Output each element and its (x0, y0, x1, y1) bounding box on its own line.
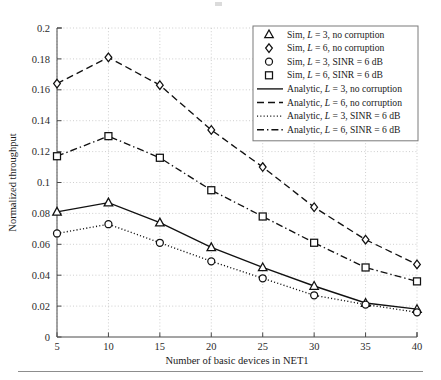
legend-label: Analytic, L = 3, SINR = 6 dB (287, 110, 400, 121)
y-tick-label: 0.2 (37, 23, 50, 34)
data-point-square-marker (311, 239, 318, 246)
x-tick-label: 20 (206, 341, 217, 352)
data-point-diamond-marker (105, 53, 112, 62)
data-point-circle-marker (54, 230, 61, 237)
x-tick-label: 40 (412, 341, 423, 352)
data-point-diamond-marker (311, 203, 318, 212)
x-tick-label: 30 (309, 341, 320, 352)
data-point-circle-marker (414, 309, 421, 316)
series-line (57, 136, 417, 281)
data-point-diamond-marker (157, 81, 164, 90)
x-tick-label: 10 (103, 341, 114, 352)
data-point-square-marker (208, 187, 215, 194)
data-point-circle-marker (208, 258, 215, 265)
data-point-diamond-marker (54, 79, 61, 88)
data-point-circle-marker (266, 58, 273, 65)
data-point-circle-marker (259, 275, 266, 282)
y-tick-label: 0.18 (32, 54, 50, 65)
y-tick-label: 0.1 (37, 177, 50, 188)
data-point-triangle-marker (104, 198, 113, 206)
data-point-diamond-marker (362, 235, 369, 244)
legend-label: Sim, L = 6, SINR = 6 dB (287, 69, 383, 80)
legend: Sim, L = 3, no corruptionSim, L = 6, no … (253, 26, 418, 141)
data-point-square-marker (259, 213, 266, 220)
chart-figure: 00.020.040.060.080.10.120.140.160.180.25… (0, 0, 441, 380)
data-point-circle-marker (105, 221, 112, 228)
data-point-square-marker (362, 264, 369, 271)
y-tick-label: 0.16 (32, 84, 50, 95)
y-axis-title: Normalized throughput (7, 133, 18, 231)
data-series (53, 198, 422, 312)
x-axis-title: Number of basic devices in NET1 (165, 355, 308, 366)
data-point-circle-marker (362, 301, 369, 308)
data-point-square-marker (156, 154, 163, 161)
legend-label: Analytic, L = 3, no corruption (287, 83, 402, 94)
x-tick-label: 15 (155, 341, 166, 352)
y-tick-label: 0.02 (32, 301, 50, 312)
data-point-square-marker (266, 72, 273, 79)
data-point-square-marker (105, 133, 112, 140)
legend-label: Sim, L = 6, no corruption (287, 42, 385, 53)
throughput-line-chart: 00.020.040.060.080.10.120.140.160.180.25… (0, 0, 441, 380)
footer-divider (18, 371, 423, 372)
data-point-circle-marker (311, 292, 318, 299)
legend-label: Analytic, L = 6, no corruption (287, 97, 402, 108)
x-tick-label: 35 (360, 341, 371, 352)
y-tick-label: 0.04 (32, 270, 51, 281)
x-tick-label: 5 (54, 341, 59, 352)
x-tick-label: 25 (257, 341, 268, 352)
data-point-diamond-marker (208, 126, 215, 135)
legend-label: Analytic, L = 6, SINR = 6 dB (287, 124, 400, 135)
legend-label: Sim, L = 3, SINR = 6 dB (287, 56, 383, 67)
y-tick-label: 0.08 (32, 208, 50, 219)
y-tick-label: 0.12 (32, 146, 50, 157)
data-point-circle-marker (156, 239, 163, 246)
legend-label: Sim, L = 3, no corruption (287, 29, 385, 40)
y-tick-label: 0.14 (32, 115, 51, 126)
y-tick-label: 0 (45, 332, 50, 343)
data-point-square-marker (414, 278, 421, 285)
series-line (57, 203, 417, 310)
y-tick-label: 0.06 (32, 239, 50, 250)
data-point-diamond-marker (414, 260, 421, 269)
data-point-square-marker (54, 153, 61, 160)
data-point-diamond-marker (259, 163, 266, 172)
